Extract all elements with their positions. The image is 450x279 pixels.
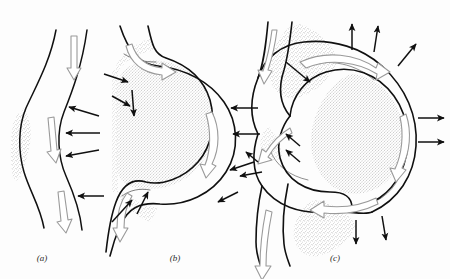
panel-b-label: (b) <box>170 253 181 263</box>
panel-a-label: (a) <box>37 253 48 263</box>
meander-evolution-figure: (a) <box>0 0 450 279</box>
figure-container: (a) <box>0 0 450 279</box>
panel-c-label: (c) <box>330 253 340 263</box>
